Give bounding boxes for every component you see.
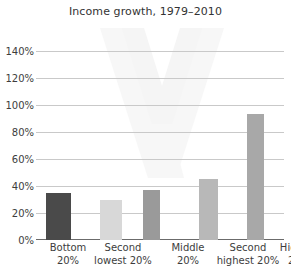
chart-title: Income growth, 1979–2010 xyxy=(0,5,291,18)
bar xyxy=(143,190,160,240)
y-axis-tick-label: 0% xyxy=(0,235,34,246)
y-axis-tick-label: 100% xyxy=(0,100,34,111)
x-axis-tick-label-line: 20% xyxy=(165,255,211,268)
bar-series xyxy=(36,51,284,240)
y-axis-tick-label: 40% xyxy=(0,181,34,192)
y-axis-tick-label: 20% xyxy=(0,208,34,219)
x-axis-tick-label: Middle20% xyxy=(165,242,211,267)
x-axis-tick-label-line: 20% xyxy=(41,255,95,268)
y-axis-tick-label: 120% xyxy=(0,73,34,84)
y-axis-tick-label: 80% xyxy=(0,127,34,138)
chart-container: Income growth, 1979–2010 0%20%40%60%80%1… xyxy=(0,0,291,279)
x-axis-tick-label: Bottom20% xyxy=(41,242,95,267)
x-axis-tick-labels: Bottom20%Secondlowest 20%Middle20%Second… xyxy=(36,242,288,278)
y-axis-tick-label: 60% xyxy=(0,154,34,165)
x-axis-tick-label: Highest20% xyxy=(274,242,291,267)
y-axis-tick-labels: 0%20%40%60%80%100%120%140% xyxy=(0,51,34,240)
x-axis-tick-label-line: Middle xyxy=(165,242,211,255)
y-axis-tick-label: 140% xyxy=(0,46,34,57)
x-axis-tick-label-line: 20% xyxy=(274,255,291,268)
bar xyxy=(199,179,218,240)
bar xyxy=(46,193,71,240)
x-axis-tick-label-line: Second xyxy=(90,242,156,255)
bar xyxy=(247,114,264,240)
x-axis-tick-label: Secondlowest 20% xyxy=(90,242,156,267)
x-axis-tick-label-line: Highest xyxy=(274,242,291,255)
x-axis-tick-label-line: Bottom xyxy=(41,242,95,255)
x-axis-tick-label-line: lowest 20% xyxy=(90,255,156,268)
bar xyxy=(100,200,122,241)
